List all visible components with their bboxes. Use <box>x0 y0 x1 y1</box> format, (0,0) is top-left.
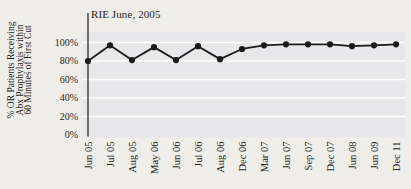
x-tick-label: Jul 05 <box>105 142 116 167</box>
data-point <box>129 57 135 63</box>
x-tick-label: Sep 07 <box>303 142 314 171</box>
x-tick-label: Aug 05 <box>127 142 138 173</box>
y-tick-label: 60% <box>60 74 78 85</box>
data-point <box>371 42 377 48</box>
x-tick-label: Dec 06 <box>237 142 248 172</box>
data-point <box>393 41 399 47</box>
data-point <box>327 41 333 47</box>
x-tick-label: Jun 09 <box>369 142 380 170</box>
x-tick-label: Aug 06 <box>215 142 226 173</box>
y-tick-label: 0% <box>65 129 78 140</box>
data-point <box>85 58 91 64</box>
y-axis-label: 60 Minutes of First Cut <box>23 25 33 115</box>
x-tick-label: Jun 08 <box>347 142 358 170</box>
data-point <box>195 43 201 49</box>
data-point <box>283 41 289 47</box>
data-point <box>173 57 179 63</box>
x-tick-label: Mar 07 <box>259 142 270 173</box>
x-tick-label: Jun 06 <box>171 142 182 170</box>
x-tick-label: Jun 05 <box>83 142 94 170</box>
y-tick-label: 20% <box>60 111 78 122</box>
data-point <box>305 41 311 47</box>
x-tick-label: Dec 11 <box>391 142 402 172</box>
y-tick-label: 80% <box>60 55 78 66</box>
data-point <box>107 42 113 48</box>
data-point <box>217 56 223 62</box>
x-tick-label: Jun 07 <box>281 142 292 170</box>
chart-figure: 0%20%40%60%80%100%Jun 05Jul 05Aug 05May … <box>0 0 411 189</box>
data-point <box>261 42 267 48</box>
x-tick-label: Dec 07 <box>325 142 336 172</box>
y-tick-label: 100% <box>55 37 78 48</box>
x-tick-label: Jul 06 <box>193 142 204 167</box>
line-chart: 0%20%40%60%80%100%Jun 05Jul 05Aug 05May … <box>0 0 411 189</box>
data-point <box>239 46 245 52</box>
data-point <box>151 44 157 50</box>
x-tick-label: May 06 <box>149 142 160 174</box>
rie-annotation: RIE June, 2005 <box>91 9 161 20</box>
y-tick-label: 40% <box>60 92 78 103</box>
data-point <box>349 43 355 49</box>
